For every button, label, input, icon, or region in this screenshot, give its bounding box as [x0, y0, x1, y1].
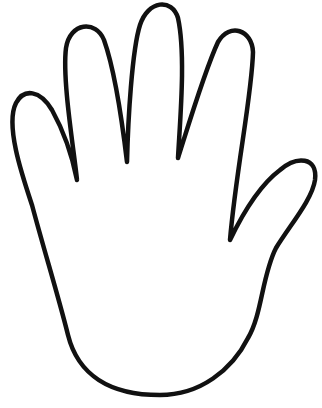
hand-outline-icon	[0, 0, 322, 408]
hand-outline-drawing	[0, 0, 322, 408]
hand-outline-path	[12, 4, 315, 395]
